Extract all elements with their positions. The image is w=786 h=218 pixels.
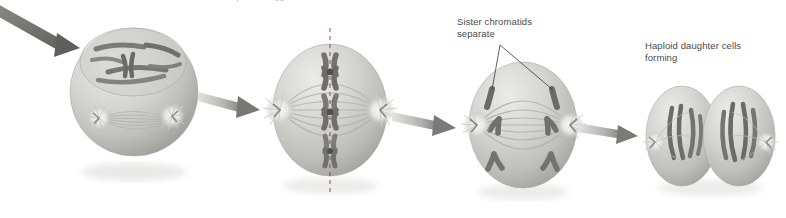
daughter-cell-right bbox=[703, 86, 778, 186]
arrow-stage1-stage2 bbox=[198, 92, 260, 118]
chromosomes-stage-2 bbox=[324, 55, 336, 166]
aster-left-stage-3 bbox=[461, 111, 491, 139]
meiosis-diagram-canvas bbox=[0, 0, 786, 218]
incoming-arrow bbox=[0, 2, 80, 57]
label-haploid-daughter-cells: Haploid daughter cells forming bbox=[645, 40, 741, 63]
stage-1-cell bbox=[70, 28, 198, 181]
label-sister-chromatids-separate: Sister chromatids separate bbox=[457, 16, 532, 39]
arrow-stage3-stage4 bbox=[578, 123, 638, 144]
cropped-title: sperm or egg cells bbox=[232, 0, 562, 1]
arrow-stage2-stage3 bbox=[392, 112, 456, 136]
stage-3-cell bbox=[461, 45, 586, 200]
stage-2-cell bbox=[263, 28, 397, 194]
stage-4-daughter-cells bbox=[643, 86, 778, 196]
